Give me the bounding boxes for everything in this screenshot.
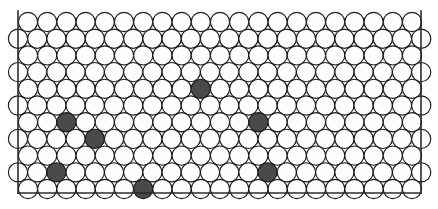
host-atom-circle: [345, 46, 364, 65]
host-atom-circle: [95, 79, 114, 98]
host-atom-circle: [306, 113, 325, 132]
host-atom-circle: [57, 179, 76, 198]
host-atom-circle: [296, 96, 315, 115]
host-atom-circle: [66, 29, 85, 48]
solute-atom-circle: [57, 113, 76, 132]
host-atom-circle: [277, 129, 296, 148]
host-atom-circle: [326, 79, 345, 98]
host-atom-circle: [306, 12, 325, 31]
host-atom-circle: [277, 63, 296, 82]
host-atom-circle: [326, 12, 345, 31]
host-atom-circle: [239, 129, 258, 148]
host-atom-circle: [392, 96, 411, 115]
host-atom-circle: [57, 146, 76, 165]
host-atom-circle: [153, 46, 172, 65]
host-atom-circle: [85, 163, 104, 182]
host-atom-circle: [200, 163, 219, 182]
host-atom-circle: [162, 163, 181, 182]
host-atom-circle: [38, 146, 57, 165]
host-atom-circle: [104, 29, 123, 48]
host-atom-circle: [402, 179, 421, 198]
host-atom-circle: [210, 79, 229, 98]
host-atom-circle: [306, 79, 325, 98]
host-atom-circle: [172, 46, 191, 65]
host-atom-circle: [28, 96, 47, 115]
host-atom-circle: [316, 29, 335, 48]
host-atom-circle: [249, 12, 268, 31]
packed-circle-figure: Random substitutional solid solution in …: [0, 0, 438, 209]
host-atom-circle: [18, 179, 37, 198]
host-atom-circle: [143, 129, 162, 148]
host-atom-circle: [392, 63, 411, 82]
host-atom-circle: [354, 63, 373, 82]
host-atom-circle: [364, 179, 383, 198]
host-atom-circle: [230, 146, 249, 165]
host-atom-circle: [95, 179, 114, 198]
host-atom-circle: [373, 29, 392, 48]
host-atom-circle: [268, 146, 287, 165]
host-atom-circle: [18, 46, 37, 65]
host-atom-circle: [57, 12, 76, 31]
host-atom-circle: [76, 179, 95, 198]
host-atom-circle: [38, 179, 57, 198]
host-atom-circle: [191, 146, 210, 165]
host-atom-circle: [268, 12, 287, 31]
lattice-canvas: [0, 0, 438, 209]
host-atom-circle: [114, 179, 133, 198]
host-atom-circle: [239, 63, 258, 82]
host-atom-circle: [287, 113, 306, 132]
solute-atom-circle: [85, 129, 104, 148]
host-atom-circle: [95, 12, 114, 31]
host-atom-circle: [104, 163, 123, 182]
host-atom-circle: [153, 12, 172, 31]
host-atom-circle: [114, 113, 133, 132]
host-atom-circle: [220, 129, 239, 148]
host-atom-circle: [76, 46, 95, 65]
host-atom-circle: [402, 46, 421, 65]
host-atom-circle: [114, 12, 133, 31]
host-atom-circle: [134, 12, 153, 31]
host-atom-circle: [354, 29, 373, 48]
host-atom-circle: [210, 46, 229, 65]
host-atom-circle: [392, 163, 411, 182]
host-atom-circle: [200, 129, 219, 148]
host-atom-circle: [335, 163, 354, 182]
host-atom-circle: [316, 129, 335, 148]
host-atom-circle: [335, 129, 354, 148]
host-atom-circle: [76, 146, 95, 165]
host-atom-circle: [210, 113, 229, 132]
host-atom-circle: [57, 79, 76, 98]
host-atom-circle: [364, 146, 383, 165]
host-atom-circle: [143, 163, 162, 182]
host-atom-circle: [364, 113, 383, 132]
host-atom-circle: [181, 163, 200, 182]
host-atom-circle: [47, 129, 66, 148]
host-atom-circle: [162, 63, 181, 82]
solute-atom-circle: [47, 163, 66, 182]
host-atom-circle: [38, 79, 57, 98]
host-atom-circle: [153, 179, 172, 198]
host-atom-circle: [200, 63, 219, 82]
host-atom-circle: [172, 12, 191, 31]
host-atom-circle: [277, 163, 296, 182]
host-atom-circle: [66, 63, 85, 82]
host-atom-circle: [383, 113, 402, 132]
host-atom-circle: [210, 179, 229, 198]
host-atom-circle: [220, 29, 239, 48]
host-atom-circle: [258, 96, 277, 115]
host-atom-circle: [181, 96, 200, 115]
host-atom-circle: [162, 96, 181, 115]
host-atom-circle: [124, 63, 143, 82]
host-atom-circle: [345, 146, 364, 165]
host-atom-circle: [306, 46, 325, 65]
host-atom-circle: [200, 29, 219, 48]
host-atom-circle: [220, 96, 239, 115]
host-atom-circle: [47, 96, 66, 115]
host-atom-circle: [76, 12, 95, 31]
host-atom-circle: [249, 79, 268, 98]
host-atom-circle: [172, 179, 191, 198]
host-atom-circle: [95, 146, 114, 165]
host-atom-circle: [85, 96, 104, 115]
host-atom-circle: [66, 163, 85, 182]
host-atom-circle: [296, 29, 315, 48]
